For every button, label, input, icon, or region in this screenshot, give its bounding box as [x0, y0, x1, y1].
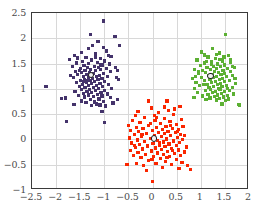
- y-tick-label: 2: [0, 32, 26, 43]
- y-tick-label: 2.5: [0, 7, 26, 18]
- y-tick-label: 1.5: [0, 57, 26, 68]
- x-tick-label: 0: [149, 191, 155, 202]
- x-tick-label: 2: [245, 191, 251, 202]
- x-tick-label: 0.5: [168, 191, 183, 202]
- x-tick-label: −1.5: [68, 191, 90, 202]
- x-tick-label: 1: [197, 191, 203, 202]
- y-tick-label: 1: [0, 82, 26, 93]
- scatter-plot-figure: −2.5−2−1.5−1−0.500.511.52 −1−0.500.511.5…: [0, 0, 263, 221]
- y-tick-label: −0.5: [0, 158, 26, 169]
- x-tick-label: −2: [48, 191, 62, 202]
- y-tick-label: 0.5: [0, 108, 26, 119]
- centroid-markers-layer: [32, 13, 247, 188]
- y-tick-label: 0: [0, 133, 26, 144]
- centroid-marker: [151, 135, 157, 141]
- centroid-marker: [207, 73, 213, 79]
- plot-area: [31, 12, 248, 189]
- y-tick-label: −1: [0, 184, 26, 195]
- x-tick-label: −1: [97, 191, 111, 202]
- x-tick-label: 1.5: [217, 191, 232, 202]
- x-tick-label: −0.5: [116, 191, 138, 202]
- centroid-marker: [88, 72, 94, 78]
